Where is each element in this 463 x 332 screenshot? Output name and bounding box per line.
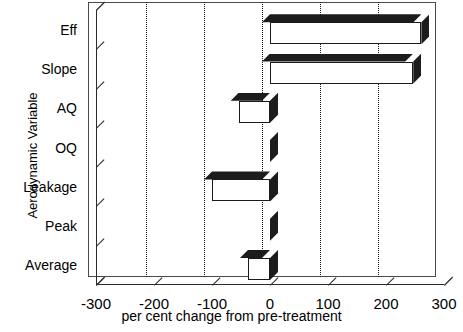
- frame-connector-2: [444, 277, 453, 286]
- bar-oq: [270, 140, 271, 162]
- y-tick-label-oq: OQ: [7, 141, 77, 155]
- bar-eff: [270, 22, 421, 44]
- x-tick-label-300: 300: [414, 295, 463, 312]
- bar-leakage: [212, 179, 270, 201]
- y-tick-label-eff: Eff: [7, 23, 77, 37]
- gridline-0: [262, 2, 263, 277]
- y-tick-label-leakage: Leakage: [7, 180, 77, 194]
- x-tick-label--200: -200: [124, 295, 184, 312]
- x-tick-label--300: -300: [66, 295, 126, 312]
- y-tick-label-average: Average: [7, 258, 77, 272]
- bar-front-face: [212, 179, 270, 201]
- y-tick-label-aq: AQ: [7, 101, 77, 115]
- y-tick-label-peak: Peak: [7, 219, 77, 233]
- bar-front-face: [239, 101, 270, 123]
- x-tick-label-100: 100: [298, 295, 358, 312]
- x-tick-label-200: 200: [356, 295, 416, 312]
- plot-area: [96, 10, 444, 285]
- bar-front-face: [248, 258, 270, 280]
- y-tick-label-slope: Slope: [7, 62, 77, 76]
- y-axis-tick-labels: EffSlopeAQOQLeakagePeakAverage: [5, 0, 77, 332]
- chart-figure: Aerodynamic Variable EffSlopeAQOQLeakage…: [0, 0, 463, 332]
- bar-front-face: [270, 62, 413, 84]
- gridline--100: [204, 2, 205, 277]
- bar-front-face: [270, 22, 421, 44]
- bar-peak: [270, 219, 271, 241]
- bar-aq: [239, 101, 270, 123]
- x-tick-label--100: -100: [182, 295, 242, 312]
- bar-average: [248, 258, 270, 280]
- gridline--200: [146, 2, 147, 277]
- bar-slope: [270, 62, 413, 84]
- x-tick-label-0: 0: [240, 295, 300, 312]
